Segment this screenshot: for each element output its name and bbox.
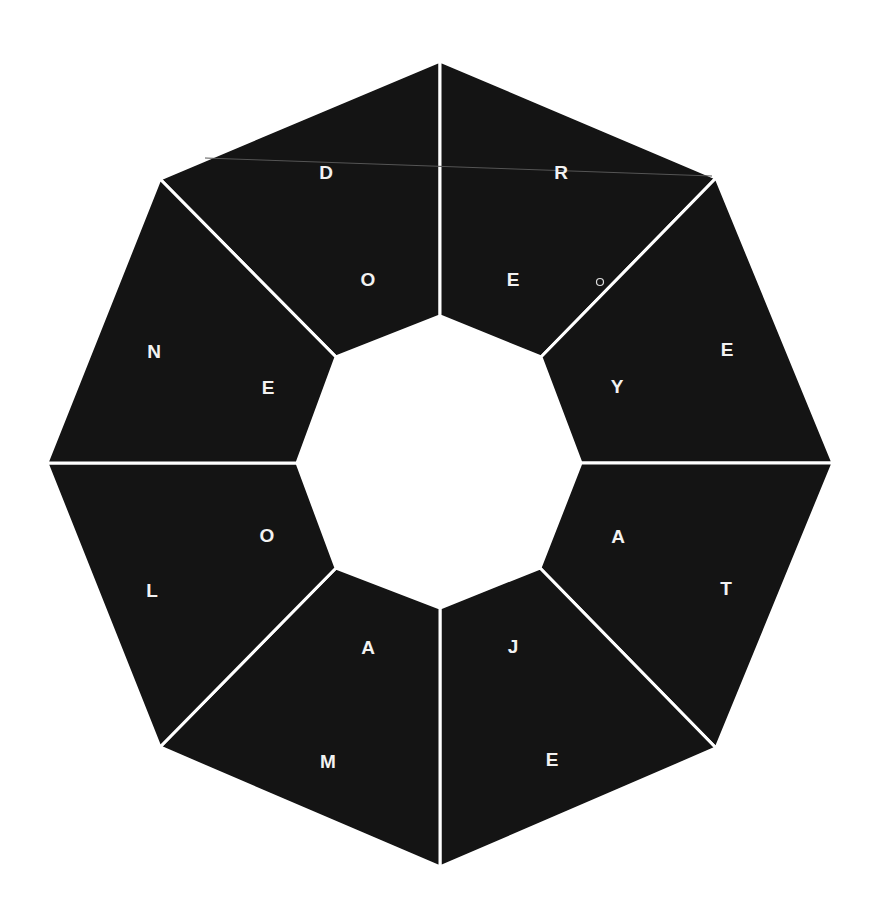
octagon-ring-diagram: D O R E E Y T A E J M A L O N E — [0, 0, 883, 922]
letter-outer-bottom-right: E — [546, 749, 559, 770]
letter-outer-top-left: D — [319, 162, 333, 183]
letter-inner-left-lower: O — [260, 525, 275, 546]
letter-inner-top-right: E — [507, 269, 520, 290]
letter-outer-bottom-left: M — [320, 751, 336, 772]
letter-inner-bottom-left: A — [361, 637, 375, 658]
letter-inner-right-upper: Y — [611, 376, 624, 397]
letter-outer-right-lower: T — [720, 578, 732, 599]
letter-outer-left-lower: L — [146, 580, 158, 601]
letter-outer-top-right: R — [554, 162, 568, 183]
letter-inner-bottom-right: J — [508, 636, 519, 657]
letter-outer-left-upper: N — [147, 341, 161, 362]
letter-inner-left-upper: E — [262, 377, 275, 398]
letter-outer-right-upper: E — [721, 339, 734, 360]
letter-inner-right-lower: A — [611, 526, 625, 547]
letter-inner-top-left: O — [361, 269, 376, 290]
